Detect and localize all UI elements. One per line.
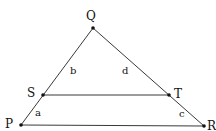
label-r: R: [207, 119, 216, 131]
side-pr: [21, 125, 204, 126]
side-pq: [21, 28, 93, 125]
point-s: [41, 93, 45, 97]
point-q: [91, 26, 95, 30]
label-c: c: [179, 108, 185, 119]
side-qr: [93, 28, 204, 126]
label-t: T: [174, 87, 182, 101]
triangle-diagram: Q S T P R b d a c: [0, 0, 216, 131]
label-a: a: [35, 107, 41, 118]
label-b: b: [70, 65, 76, 76]
label-s: S: [27, 86, 35, 100]
label-d: d: [122, 65, 129, 76]
point-r: [202, 124, 206, 128]
point-t: [167, 93, 171, 97]
point-p: [19, 123, 23, 127]
label-q: Q: [86, 9, 96, 23]
label-p: P: [5, 117, 13, 131]
